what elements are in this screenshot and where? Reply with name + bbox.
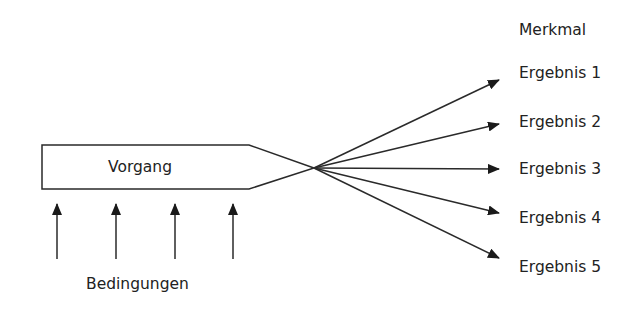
result-arrow-1 [314,80,499,168]
result-arrow-2 [314,124,499,168]
result-arrow-3 [314,168,499,169]
characteristic-label: Merkmal [519,21,586,39]
result-label-2: Ergebnis 2 [519,113,601,131]
conditions-label: Bedingungen [86,275,189,293]
process-label: Vorgang [108,158,172,176]
result-label-3: Ergebnis 3 [519,160,601,178]
result-label-5: Ergebnis 5 [519,258,601,276]
result-label-4: Ergebnis 4 [519,209,601,227]
result-label-1: Ergebnis 1 [519,64,601,82]
result-arrow-5 [314,168,499,258]
process-shape [42,145,314,189]
result-arrow-4 [314,168,499,213]
